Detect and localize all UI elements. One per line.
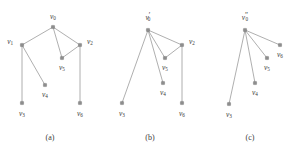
graph-node-v2[interactable] bbox=[78, 43, 81, 46]
graph-node-v0[interactable] bbox=[243, 28, 246, 31]
graph-node-v6[interactable] bbox=[180, 101, 183, 104]
graph-edge-v0-v5 bbox=[245, 30, 267, 58]
graph-edge-v0-v1 bbox=[22, 27, 53, 45]
graph-edge-v0-v3 bbox=[229, 30, 245, 104]
graph-edge-v2-v5 bbox=[165, 45, 182, 58]
panel-b: v′0v2v5v4v3v6(b) bbox=[119, 10, 195, 142]
node-layer: v″0v6v5v4v3 bbox=[226, 10, 283, 119]
graph-edge-v0-v3 bbox=[122, 30, 148, 103]
graph-node-label-v1: v1 bbox=[7, 37, 13, 46]
graph-node-label-v5: v5 bbox=[59, 63, 65, 72]
graph-node-v3[interactable] bbox=[120, 101, 123, 104]
graph-figure-svg: v0v1v2v5v4v3v6(a)v′0v2v5v4v3v6(b)v″0v6v5… bbox=[0, 0, 297, 154]
graph-node-label-v0: v0 bbox=[50, 12, 56, 21]
graph-node-label-v6: v6 bbox=[277, 50, 283, 59]
panel-caption-3: (c) bbox=[246, 133, 255, 142]
graph-node-v2[interactable] bbox=[180, 43, 183, 46]
panel-caption-2: (b) bbox=[145, 133, 155, 142]
graph-node-v5[interactable] bbox=[265, 56, 268, 59]
graph-node-v3[interactable] bbox=[20, 101, 23, 104]
graph-node-label-v2: v2 bbox=[189, 37, 195, 46]
graph-node-v4[interactable] bbox=[253, 81, 256, 84]
graph-edge-v2-v5 bbox=[62, 45, 80, 58]
graph-node-v1[interactable] bbox=[20, 43, 23, 46]
panel-c: v″0v6v5v4v3(c) bbox=[226, 10, 283, 142]
graph-node-label-v3: v3 bbox=[226, 110, 232, 119]
graph-node-label-v0: v′0 bbox=[146, 10, 151, 22]
graph-edge-v0-v5 bbox=[148, 30, 165, 58]
graph-edge-v1-v4 bbox=[22, 45, 45, 85]
graph-edge-v0-v2 bbox=[148, 30, 182, 45]
graph-node-v4[interactable] bbox=[161, 81, 164, 84]
graph-node-label-v2: v2 bbox=[87, 37, 93, 46]
graph-node-v5[interactable] bbox=[163, 56, 166, 59]
graph-node-label-v3: v3 bbox=[19, 109, 25, 118]
graph-edge-v0-v4 bbox=[148, 30, 163, 83]
graph-node-v6[interactable] bbox=[78, 101, 81, 104]
panel-caption-1: (a) bbox=[46, 133, 55, 142]
graph-node-v6[interactable] bbox=[278, 43, 281, 46]
panels-group: v0v1v2v5v4v3v6(a)v′0v2v5v4v3v6(b)v″0v6v5… bbox=[7, 10, 283, 142]
graph-node-label-v6: v6 bbox=[179, 109, 185, 118]
graph-node-label-v4: v4 bbox=[160, 88, 166, 97]
graph-node-v5[interactable] bbox=[60, 56, 63, 59]
graph-edge-v0-v4 bbox=[245, 30, 255, 83]
edge-layer bbox=[122, 30, 182, 103]
graph-node-label-v4: v4 bbox=[252, 88, 258, 97]
graph-node-v0[interactable] bbox=[146, 28, 149, 31]
graph-node-label-v0: v″0 bbox=[242, 10, 249, 22]
edge-layer bbox=[22, 27, 80, 103]
graph-node-label-v5: v5 bbox=[162, 63, 168, 72]
graph-node-v3[interactable] bbox=[227, 102, 230, 105]
graph-node-v4[interactable] bbox=[43, 83, 46, 86]
graph-edge-v0-v6 bbox=[245, 30, 280, 45]
graph-node-label-v6: v6 bbox=[77, 109, 83, 118]
graph-node-v0[interactable] bbox=[51, 25, 54, 28]
panel-a: v0v1v2v5v4v3v6(a) bbox=[7, 12, 93, 142]
graph-node-label-v3: v3 bbox=[119, 109, 125, 118]
figure-container: v0v1v2v5v4v3v6(a)v′0v2v5v4v3v6(b)v″0v6v5… bbox=[0, 0, 297, 154]
node-layer: v′0v2v5v4v3v6 bbox=[119, 10, 195, 118]
graph-node-label-v5: v5 bbox=[264, 63, 270, 72]
graph-node-label-v4: v4 bbox=[42, 90, 48, 99]
